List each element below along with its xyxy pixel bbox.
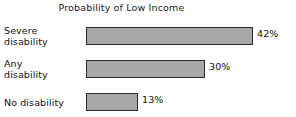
bar-track: [86, 27, 253, 45]
bar-track: [86, 93, 138, 111]
category-label: No disability: [0, 97, 78, 108]
category-label: Severe disability: [0, 25, 78, 47]
bar-track: [86, 60, 205, 78]
chart-title: Probability of Low Income: [0, 2, 243, 13]
bar-value-label: 30%: [209, 61, 230, 72]
category-label-line2: disability: [4, 69, 78, 80]
category-label-line1: No disability: [4, 97, 64, 108]
bar-any-disability: [86, 60, 205, 78]
bar-no-disability: [86, 93, 138, 111]
bar-value-label: 13%: [142, 94, 163, 105]
category-label-line2: disability: [4, 36, 78, 47]
category-label: Any disability: [0, 58, 78, 80]
bar-chart: Probability of Low Income Severe disabil…: [0, 0, 296, 117]
category-label-line1: Severe: [4, 25, 37, 36]
bar-severe-disability: [86, 27, 253, 45]
bar-value-label: 42%: [257, 28, 278, 39]
category-label-line1: Any: [4, 58, 22, 69]
